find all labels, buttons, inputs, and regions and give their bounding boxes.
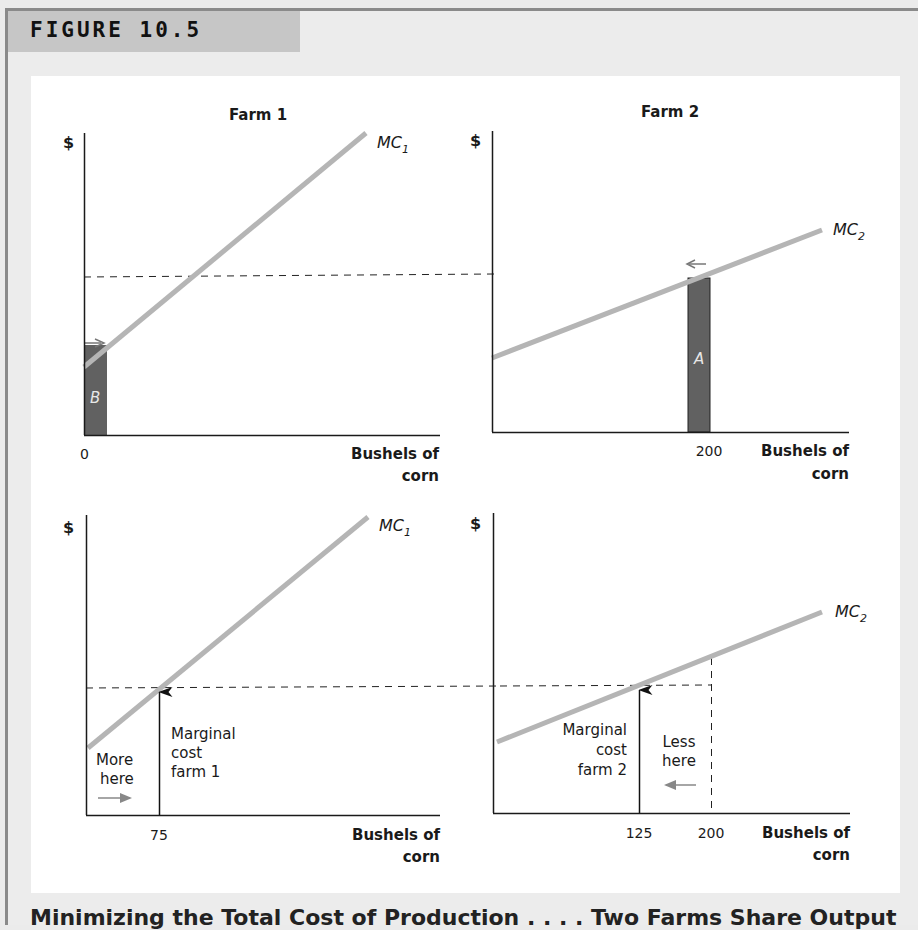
svg-text:cost: cost <box>171 744 202 762</box>
chart-farm2-top: Farm 2 $ A MC2 200 Bushels of corn <box>470 103 865 483</box>
x-axis-label: Bushels of <box>761 442 849 460</box>
annotation-more-here: More <box>96 751 133 769</box>
svg-text:here: here <box>100 770 134 788</box>
svg-text:cost: cost <box>596 741 627 759</box>
x-axis-label: Bushels of <box>352 826 440 844</box>
x-tick-125: 125 <box>626 825 653 841</box>
mc2-curve <box>492 230 822 358</box>
chart-title: Farm 1 <box>229 106 287 124</box>
chart-farm1-top: Farm 1 $ B MC1 0 Bushels of corn <box>63 106 495 485</box>
dashed-price-line <box>84 274 495 277</box>
x-tick-200: 200 <box>698 825 725 841</box>
y-axis-label: $ <box>63 518 74 537</box>
svg-text:here: here <box>662 752 696 770</box>
x-tick-200: 200 <box>696 443 723 459</box>
svg-text:corn: corn <box>812 465 849 483</box>
svg-text:corn: corn <box>403 848 440 866</box>
chart-title: Farm 2 <box>641 103 699 121</box>
x-tick-0: 0 <box>80 446 89 462</box>
mc1-curve <box>84 133 366 367</box>
y-axis-label: $ <box>63 133 74 152</box>
chart-farm2-bottom: $ MC2 Marginal cost farm 2 Less here 125… <box>470 513 867 864</box>
bar-label: A <box>693 350 704 368</box>
figure-caption: Minimizing the Total Cost of Production … <box>30 905 896 930</box>
bar-label: B <box>90 389 100 407</box>
y-axis-label: $ <box>470 514 481 533</box>
svg-text:farm 2: farm 2 <box>578 761 627 779</box>
curve-label: MC2 <box>833 220 865 243</box>
x-axis-label: Bushels of <box>351 445 439 463</box>
svg-text:corn: corn <box>402 467 439 485</box>
annotation-marginal-cost-farm1: Marginal <box>171 725 236 743</box>
curve-label: MC1 <box>377 133 409 156</box>
x-tick-75: 75 <box>150 827 168 843</box>
dashed-equal-mc-line <box>500 685 711 686</box>
svg-text:farm 1: farm 1 <box>171 763 220 781</box>
chart-farm1-bottom: $ MC1 More here Marginal cost farm 1 75 … <box>63 515 500 866</box>
x-axis-label: Bushels of <box>762 824 850 842</box>
dashed-equal-mc-line <box>86 686 500 688</box>
svg-text:corn: corn <box>813 846 850 864</box>
mc2-curve <box>497 612 822 742</box>
mc1-curve <box>88 517 368 748</box>
annotation-marginal-cost-farm2: Marginal <box>562 721 627 739</box>
y-axis-label: $ <box>470 131 481 150</box>
curve-label: MC2 <box>835 602 867 625</box>
annotation-less-here: Less <box>663 733 696 751</box>
curve-label: MC1 <box>379 516 411 539</box>
